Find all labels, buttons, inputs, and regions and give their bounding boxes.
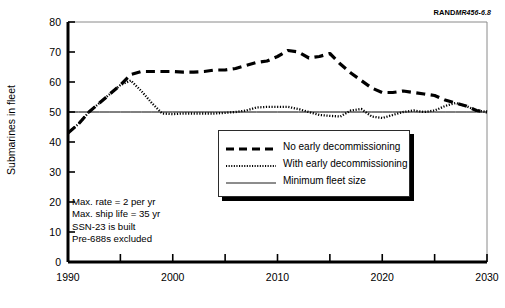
y-tick-label: 50 — [49, 106, 61, 118]
chart-legend: No early decommissioning With early deco… — [218, 130, 410, 197]
x-tick-label: 2010 — [266, 271, 290, 283]
y-tick-label: 20 — [49, 196, 61, 208]
legend-swatch-dotted — [225, 158, 277, 170]
x-tick-label: 1990 — [56, 271, 80, 283]
legend-label: With early decommissioning — [283, 158, 408, 169]
x-tick-label: 2020 — [371, 271, 395, 283]
annotation-line: SSN-23 is built — [72, 221, 160, 233]
legend-item-with-early-decommissioning: With early decommissioning — [225, 155, 401, 172]
figure-container: RANDMR456-6.8 Submarines in fleet 010203… — [0, 0, 505, 308]
series-line-dashed — [68, 51, 487, 134]
legend-swatch-solid — [225, 175, 277, 187]
x-tick-label: 2030 — [475, 271, 499, 283]
x-tick-label: 2000 — [161, 271, 185, 283]
y-tick-label: 60 — [49, 76, 61, 88]
y-tick-label: 10 — [49, 226, 61, 238]
y-tick-label: 80 — [49, 16, 61, 28]
legend-label: Minimum fleet size — [283, 175, 366, 186]
annotation-line: Max. rate = 2 per yr — [72, 196, 160, 208]
annotation-line: Max. ship life = 35 yr — [72, 208, 160, 220]
legend-item-minimum-fleet-size: Minimum fleet size — [225, 172, 401, 189]
y-tick-label: 70 — [49, 46, 61, 58]
series-line-dotted — [68, 81, 487, 134]
y-tick-label: 30 — [49, 166, 61, 178]
annotation-line: Pre-688s excluded — [72, 233, 160, 245]
legend-item-no-early-decommissioning: No early decommissioning — [225, 138, 401, 155]
chart-annotations: Max. rate = 2 per yr Max. ship life = 35… — [72, 196, 160, 246]
y-tick-label: 40 — [49, 136, 61, 148]
y-tick-label: 0 — [55, 256, 61, 268]
legend-label: No early decommissioning — [283, 141, 400, 152]
legend-swatch-dashed — [225, 141, 277, 153]
